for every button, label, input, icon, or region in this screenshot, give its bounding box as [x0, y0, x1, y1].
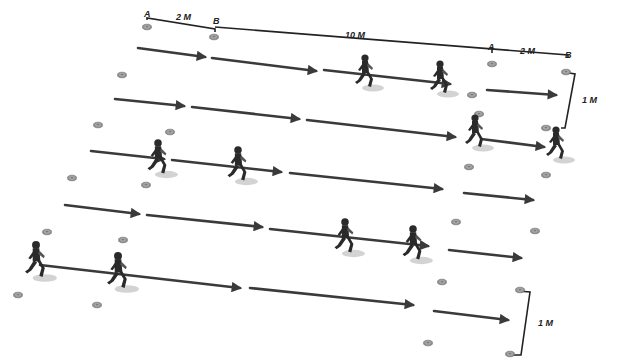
arrow-icon [449, 250, 521, 258]
cone-icon [119, 237, 128, 243]
cone-icon [94, 122, 103, 128]
cone-icon [93, 302, 102, 308]
cone-icon [452, 219, 461, 225]
arrow-icon [147, 215, 262, 227]
cone-icon [118, 72, 127, 78]
drill-diagram: Running drill: 2 M acceleration, 10 M ru… [0, 0, 617, 364]
cone-icon [488, 61, 497, 67]
cone-icon [166, 129, 175, 135]
distance-labels: A 2 M B 10 M A 2 M B 1 M 1 M [143, 9, 598, 328]
measure-1m-bottom [513, 291, 530, 355]
arrow-icon [212, 58, 316, 71]
cone-icon [142, 182, 151, 188]
arrow-icon [487, 90, 556, 95]
cone-icon [210, 34, 219, 40]
run-arrows [40, 48, 556, 320]
label-a-left: A [143, 9, 151, 19]
runner-lane5-a-icon [25, 241, 57, 282]
measure-1m-top [561, 73, 575, 128]
arrow-icon [138, 48, 205, 57]
cone-icon [14, 292, 23, 298]
arrow-icon [250, 288, 413, 305]
cone-icon [424, 340, 433, 346]
runner-lane2-a-icon [465, 114, 494, 151]
cone-icon [531, 228, 540, 234]
runner-lane1-b-icon [430, 60, 459, 97]
cone-icon [506, 351, 515, 357]
arrow-icon [307, 120, 455, 137]
cone-icon [542, 125, 551, 131]
measure-b-to-b-top [215, 27, 568, 58]
arrow-icon [324, 70, 450, 84]
arrow-icon [40, 265, 240, 288]
cone-icon [468, 92, 477, 98]
cone-icon [562, 69, 571, 75]
label-a-right: A [487, 42, 495, 52]
label-1m-bottom: 1 M [538, 318, 554, 328]
lane-2 [115, 99, 544, 147]
label-1m-top: 1 M [582, 95, 598, 105]
label-b-left: B [213, 16, 220, 26]
cone-icon [516, 287, 525, 293]
arrow-icon [172, 160, 281, 172]
cones [14, 24, 571, 357]
arrow-icon [434, 311, 508, 320]
cone-icon [542, 172, 551, 178]
cone-icon [43, 229, 52, 235]
arrow-icon [290, 173, 442, 189]
cone-icon [143, 24, 152, 30]
cone-icon [465, 164, 474, 170]
label-2m-right: 2 M [519, 46, 536, 56]
arrow-icon [65, 205, 139, 214]
lane-4 [65, 205, 521, 258]
label-10m: 10 M [345, 30, 366, 40]
lane-1 [138, 48, 556, 95]
cone-icon [68, 175, 77, 181]
cone-icon [438, 279, 447, 285]
lane-5 [40, 265, 508, 320]
label-2m-left: 2 M [175, 12, 192, 22]
arrow-icon [464, 193, 533, 200]
label-b-right: B [565, 50, 572, 60]
arrow-icon [115, 99, 184, 106]
diagram-canvas: A 2 M B 10 M A 2 M B 1 M 1 M [0, 0, 617, 364]
arrow-icon [192, 107, 299, 119]
runner-lane2-b-icon [546, 126, 575, 163]
